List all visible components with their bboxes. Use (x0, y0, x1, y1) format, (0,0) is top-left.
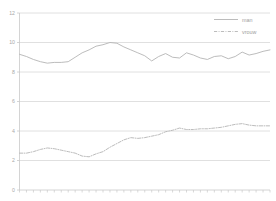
y-tick-label: 8 (12, 69, 15, 75)
y-tick-label: 6 (12, 98, 15, 104)
chart-background (0, 0, 276, 201)
chart-container: 024681012 man vrouw (0, 0, 276, 201)
y-tick-label: 0 (12, 187, 15, 193)
line-chart: 024681012 man vrouw (0, 0, 276, 201)
legend-label-man: man (242, 17, 253, 23)
y-tick-label: 10 (9, 39, 15, 45)
y-tick-label: 4 (12, 128, 15, 134)
y-tick-label: 2 (12, 157, 15, 163)
y-tick-label: 12 (9, 10, 15, 16)
legend-label-vrouw: vrouw (242, 29, 256, 35)
